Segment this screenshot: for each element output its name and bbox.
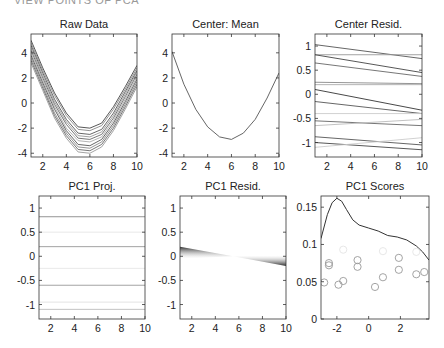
y-tick-label: 0.1 [302, 238, 317, 250]
score-marker [413, 271, 420, 278]
y-tick-label: 0.5 [20, 226, 35, 238]
pc1-proj-panel: PC1 Proj.246810-1-0.500.51 [17, 180, 151, 334]
resid-wedge-right [233, 255, 286, 266]
x-tick-label: 8 [260, 322, 266, 334]
y-tick-label: -4 [159, 147, 168, 159]
score-marker [371, 283, 378, 290]
center-mean-plot-area [172, 52, 279, 140]
x-tick-label: 10 [280, 322, 292, 334]
score-marker [321, 279, 328, 286]
y-tick-label: 0 [305, 88, 311, 100]
score-marker [379, 248, 386, 255]
y-tick-label: 0.5 [296, 64, 311, 76]
y-tick-label: -2 [159, 122, 168, 134]
x-tick-label: 4 [63, 160, 69, 172]
y-tick-label: -1 [167, 299, 176, 311]
x-tick-label: 10 [131, 160, 143, 172]
pc1-proj-title: PC1 Proj. [68, 180, 115, 192]
y-tick-label: 0 [162, 97, 168, 109]
y-tick-label: 2 [162, 72, 168, 84]
x-tick-label: 8 [111, 160, 117, 172]
score-marker [395, 266, 402, 273]
pc1-proj-axes [39, 196, 145, 319]
x-tick-label: 4 [71, 322, 77, 334]
y-tick-label: 0 [311, 313, 317, 325]
pc1-scores-panel: PC1 Scores-20200.050.10.15 [297, 180, 429, 334]
x-tick-label: 10 [273, 160, 285, 172]
y-tick-label: 0.5 [161, 226, 176, 238]
series-line [31, 60, 137, 150]
x-tick-label: 6 [372, 160, 378, 172]
y-tick-label: 2 [21, 72, 27, 84]
resid-wedge-left [180, 247, 233, 259]
x-tick-label: 8 [252, 160, 258, 172]
pc1-scores-title: PC1 Scores [346, 180, 405, 192]
x-tick-label: 6 [236, 322, 242, 334]
series-line [315, 82, 422, 83]
y-tick-label: 1 [29, 202, 35, 214]
x-tick-label: 2 [324, 160, 330, 172]
y-tick-label: -1 [26, 299, 35, 311]
x-tick-label: 2 [397, 322, 403, 334]
center-resid-axes [315, 34, 422, 157]
x-tick-label: 4 [212, 322, 218, 334]
score-marker [335, 281, 342, 288]
y-tick-label: 0 [21, 97, 27, 109]
score-marker [413, 248, 420, 255]
y-tick-label: -0.5 [17, 274, 35, 286]
pc1-scores-axes [321, 196, 429, 319]
pc1-resid-plot-area [180, 247, 286, 266]
pc1-resid-title: PC1 Resid. [205, 180, 261, 192]
score-marker [395, 254, 402, 261]
pc1-scores-plot-area [321, 198, 429, 290]
y-tick-label: -1 [302, 137, 311, 149]
figure: Raw Data246810-4-2024Center: Mean246810-… [0, 0, 444, 348]
series-line [315, 45, 422, 59]
y-tick-label: 0 [29, 250, 35, 262]
y-tick-label: -0.5 [158, 274, 176, 286]
pc1-proj-plot-area [39, 217, 145, 310]
y-tick-label: 4 [21, 47, 27, 59]
series-line [172, 52, 279, 140]
score-marker [340, 246, 347, 253]
x-tick-label: 2 [40, 160, 46, 172]
y-tick-label: 0.05 [297, 276, 318, 288]
center-mean-title: Center: Mean [192, 18, 259, 30]
raw-data-plot-area [31, 40, 137, 153]
x-tick-label: 6 [95, 322, 101, 334]
x-tick-label: 6 [87, 160, 93, 172]
x-tick-label: 10 [139, 322, 151, 334]
pc1-resid-panel: PC1 Resid.246810-1-0.500.51 [158, 180, 292, 334]
y-tick-label: 1 [170, 202, 176, 214]
y-tick-label: -4 [18, 147, 27, 159]
x-tick-label: 2 [181, 160, 187, 172]
raw-data-title: Raw Data [60, 18, 109, 30]
x-tick-label: 2 [48, 322, 54, 334]
score-marker [421, 268, 428, 275]
y-tick-label: 4 [162, 47, 168, 59]
x-tick-label: -2 [332, 322, 341, 334]
x-tick-label: 0 [366, 322, 372, 334]
x-tick-label: 8 [119, 322, 125, 334]
center-resid-title: Center Resid. [335, 18, 402, 30]
x-tick-label: 2 [189, 322, 195, 334]
score-marker [340, 277, 347, 284]
center-mean-panel: Center: Mean246810-4-2024 [159, 18, 285, 172]
score-marker [354, 257, 361, 264]
center-resid-plot-area [315, 45, 422, 150]
y-tick-label: -0.5 [293, 112, 311, 124]
y-tick-label: 0 [170, 250, 176, 262]
score-marker [379, 274, 386, 281]
y-tick-label: 0.15 [297, 201, 318, 213]
series-line [31, 58, 137, 148]
raw-data-panel: Raw Data246810-4-2024 [18, 18, 143, 172]
x-tick-label: 4 [205, 160, 211, 172]
x-tick-label: 4 [348, 160, 354, 172]
score-marker [354, 263, 361, 270]
y-tick-label: -2 [18, 122, 27, 134]
x-tick-label: 10 [416, 160, 428, 172]
x-tick-label: 6 [229, 160, 235, 172]
y-tick-label: 1 [305, 40, 311, 52]
series-line [315, 89, 422, 110]
x-tick-label: 8 [395, 160, 401, 172]
